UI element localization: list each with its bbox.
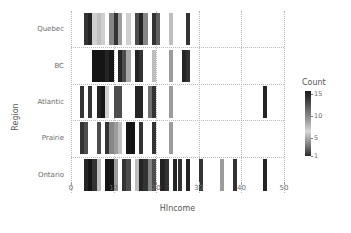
- heatmap-cell: [126, 13, 130, 45]
- x-tick-mark: [199, 182, 200, 185]
- legend-tick-mark: [311, 94, 313, 95]
- heatmap-cell: [97, 122, 101, 154]
- heatmap-cell: [156, 13, 160, 45]
- y-tick-label-prairie: Prairie: [42, 134, 64, 142]
- plot-panel: [71, 11, 284, 193]
- x-tick-mark: [114, 182, 115, 185]
- legend-tick-label: 10: [314, 112, 322, 120]
- heatmap-cell: [186, 13, 190, 45]
- x-tick-label: 40: [237, 184, 246, 192]
- x-tick-mark: [284, 182, 285, 185]
- y-tick-label-quebec: Quebec: [37, 25, 64, 33]
- x-axis-label: HIncome: [71, 204, 284, 213]
- heatmap-cell: [101, 13, 105, 45]
- legend-tick-label: 1: [314, 152, 318, 160]
- y-tick-label-bc: BC: [54, 62, 64, 70]
- heatmap-cell: [263, 159, 267, 191]
- gridline-x: [284, 11, 285, 193]
- legend-tick-mark: [311, 138, 313, 139]
- x-tick-label: 20: [152, 184, 161, 192]
- legend: Count 151051: [296, 78, 348, 164]
- heatmap-cell: [186, 50, 190, 82]
- heatmap-cell: [178, 159, 182, 191]
- heatmap-cell: [118, 122, 122, 154]
- y-axis-label: Region: [11, 103, 20, 130]
- legend-tick-mark: [311, 156, 313, 157]
- chart-figure: 01020304050 QuebecBCAtlanticPrairieOntar…: [0, 0, 351, 233]
- heatmap-cell: [118, 86, 122, 118]
- heatmap-cell: [220, 159, 224, 191]
- heatmap-cell: [126, 159, 130, 191]
- x-tick-mark: [71, 182, 72, 185]
- heatmap-cell: [88, 86, 92, 118]
- x-tick-mark: [241, 182, 242, 185]
- heatmap-cell: [139, 86, 143, 118]
- heatmap-cell: [126, 50, 130, 82]
- heatmap-cell: [80, 86, 84, 118]
- heatmap-cell: [139, 122, 143, 154]
- heatmap-cell: [139, 50, 143, 82]
- legend-tick-mark: [311, 116, 313, 117]
- heatmap-cell: [118, 13, 122, 45]
- legend-colorbar: [305, 91, 311, 156]
- heatmap-cell: [109, 50, 113, 82]
- legend-tick-label: 15: [314, 90, 322, 98]
- legend-title: Count: [302, 78, 326, 87]
- heatmap-cell: [263, 86, 267, 118]
- y-tick-label-atlantic: Atlantic: [37, 98, 64, 106]
- legend-tick-label: 5: [314, 134, 318, 142]
- heatmap-cell: [97, 159, 101, 191]
- heatmap-cell: [143, 13, 147, 45]
- x-tick-label: 50: [280, 184, 289, 192]
- heatmap-cell: [84, 122, 88, 154]
- heatmap-cell: [169, 50, 173, 82]
- heatmap-cell: [169, 86, 173, 118]
- heatmap-cell: [131, 122, 135, 154]
- x-tick-label: 0: [69, 184, 73, 192]
- x-tick-mark: [156, 182, 157, 185]
- heatmap-cell: [152, 122, 156, 154]
- heatmap-cell: [165, 159, 169, 191]
- heatmap-cell: [169, 122, 173, 154]
- x-tick-label: 10: [109, 184, 118, 192]
- heatmap-tiles: [71, 11, 284, 193]
- heatmap-cell: [152, 50, 156, 82]
- heatmap-cell: [105, 86, 109, 118]
- x-tick-label: 30: [194, 184, 203, 192]
- heatmap-cell: [169, 13, 173, 45]
- heatmap-cell: [152, 86, 156, 118]
- heatmap-cell: [186, 159, 190, 191]
- y-tick-label-ontario: Ontario: [38, 171, 64, 179]
